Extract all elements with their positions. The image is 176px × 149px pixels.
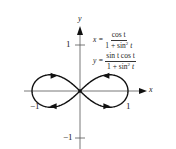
y-axis-arrow-icon — [77, 26, 83, 35]
x-axis-arrow-icon — [139, 88, 147, 94]
equation-y-lhs: y = — [93, 57, 103, 65]
y-axis-label: y — [78, 15, 82, 23]
x-tick-label-neg1: −1 — [30, 102, 40, 111]
equation-x-denominator: 1 + sin2 t — [105, 41, 132, 50]
direction-arrow-icon — [51, 73, 58, 79]
equation-y-denominator: 1 + sin2 t — [107, 62, 134, 71]
equation-y-numerator: sin t cos t — [105, 52, 136, 62]
equation-x-den-tail: t — [128, 41, 132, 50]
equation-x: x = cos t 1 + sin2 t — [93, 31, 132, 49]
equation-y: y = sin t cos t 1 + sin2 t — [93, 52, 136, 70]
y-tick-label-neg1: −1 — [63, 133, 73, 142]
direction-arrow-icon — [103, 103, 110, 109]
lemniscate-plot — [0, 0, 176, 149]
y-tick-label-1: 1 — [66, 40, 71, 49]
equation-x-lhs: x = — [93, 36, 103, 44]
origin-point — [78, 89, 82, 93]
direction-arrow-icon — [102, 73, 109, 79]
x-tick-label-1: 1 — [126, 102, 131, 111]
equation-y-den-base: 1 + sin — [107, 62, 127, 71]
equation-y-fraction: sin t cos t 1 + sin2 t — [105, 52, 136, 70]
direction-arrow-icon — [50, 103, 57, 109]
equation-x-fraction: cos t 1 + sin2 t — [105, 31, 132, 49]
equation-x-den-base: 1 + sin — [105, 41, 125, 50]
equation-y-den-tail: t — [130, 62, 134, 71]
equation-x-numerator: cos t — [111, 31, 127, 41]
x-axis-label: x — [149, 86, 153, 94]
